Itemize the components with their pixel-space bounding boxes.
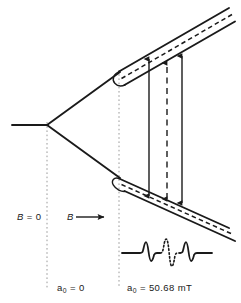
lower-branch-line [47,125,120,178]
lower-band-top-line [119,179,229,229]
level-fork-group [12,72,120,178]
lower-band-middle-dashed-line [122,185,233,235]
field-axis-label: B [67,211,74,222]
transition-arrows-group [149,56,182,203]
hyperfine-zero-label: a0 = 0 [57,282,85,294]
lower-hyperfine-band [112,178,235,241]
epr-derivative-spectrum [122,239,212,266]
upper-band-bottom-line [125,22,236,86]
hyperfine-value-relation: = 50.68 mT [137,282,192,293]
upper-hyperfine-band [113,8,235,86]
hyperfine-zero-relation: = 0 [67,282,85,293]
hyperfine-value-label: a0 = 50.68 mT [127,282,192,294]
spectrum-trace-right [180,242,212,261]
upper-band-middle-dashed-line [122,15,233,79]
upper-branch-line [47,72,120,125]
upper-band-top-line [119,8,229,72]
guide-lines-group [47,70,119,288]
spectrum-trace-center-forbidden [160,239,180,266]
spectrum-trace-left [122,242,160,261]
zero-field-label: B = 0 [17,211,41,222]
zero-field-relation: = 0 [24,211,42,222]
labels-group: B = 0 B a0 = 0 a0 = 50.68 mT [17,211,192,294]
diagram-canvas: B = 0 B a0 = 0 a0 = 50.68 mT [0,0,241,303]
energy-level-diagram-figure: B = 0 B a0 = 0 a0 = 50.68 mT [0,0,241,303]
lower-band-bottom-line [125,191,236,241]
